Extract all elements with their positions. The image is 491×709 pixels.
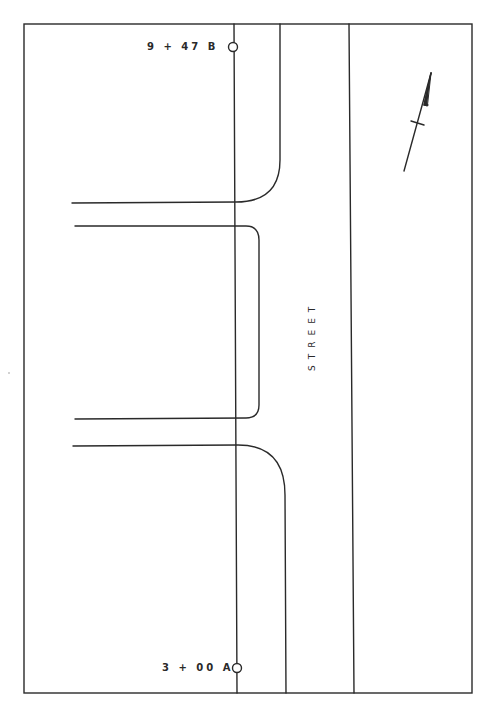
curb-line-lower (73, 445, 286, 693)
station-label-top: 9 + 47 B (147, 41, 218, 52)
street-far-line (349, 24, 354, 693)
plan-drawing (0, 0, 491, 709)
station-label-bottom: 3 + 00 A (162, 662, 233, 673)
station-line (234, 24, 237, 693)
street-label: STREET (307, 301, 317, 371)
north-arrow-icon (404, 73, 431, 171)
driveway-island (75, 226, 259, 419)
station-marker-top (229, 43, 238, 52)
station-marker-bottom (233, 664, 242, 673)
drawing-frame (24, 24, 472, 693)
